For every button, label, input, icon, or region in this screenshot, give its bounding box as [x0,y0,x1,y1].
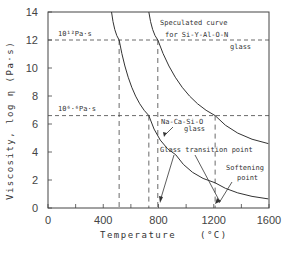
x-tick-label: 1600 [257,214,281,226]
ref-66-label: 10⁶·⁶Pa·s [58,105,96,113]
y-tick-label: 2 [32,174,38,186]
y-tick-labels: 02468101214 [26,6,38,214]
y-tick-label: 14 [26,6,38,18]
softening-label-1: Softening [226,164,264,172]
x-tick-label: 800 [149,214,167,226]
x-tick-label: 400 [94,214,112,226]
spec-label-1: Speculated curve [160,19,227,27]
reference-lines [48,40,269,208]
arrows [161,127,232,203]
x-axis-unit: (°C) [200,230,228,240]
y-tick-label: 0 [32,202,38,214]
softening-label-2: point [237,174,258,182]
arrow-head-icon [159,196,163,203]
na-arrow [166,127,173,134]
arrow-head-icon [215,198,221,204]
gt-arrow-2 [195,155,220,202]
gt-arrow-1 [161,155,174,198]
ref-12-label: 10¹²Pa·s [58,30,92,38]
y-tick-label: 8 [32,90,38,102]
viscosity-chart: 02468101214 040080012001600 10¹²Pa·s 10⁶… [0,0,291,260]
y-tick-label: 12 [26,34,38,46]
x-tick-label: 1200 [202,214,226,226]
spec-label-3: glass [230,43,251,51]
y-tick-label: 10 [26,62,38,74]
x-tick-label: 0 [45,214,51,226]
na-label-2: glass [184,125,205,133]
spec-label-2: for Si-Y-Al-O-N [165,31,228,39]
softening-arrow [219,182,232,203]
y-tick-label: 6 [32,118,38,130]
y-tick-label: 4 [32,146,38,158]
arrow-head-icon [163,132,167,137]
y-axis-label: Viscosity, log η (Pa·s) [5,41,15,200]
x-tick-labels: 040080012001600 [45,214,281,226]
glass-transition-label: Glass transition point [160,146,253,154]
x-axis-label: Temperature [100,230,176,240]
chart-svg: 02468101214 040080012001600 10¹²Pa·s 10⁶… [0,0,291,260]
arrow-heads [159,132,221,204]
